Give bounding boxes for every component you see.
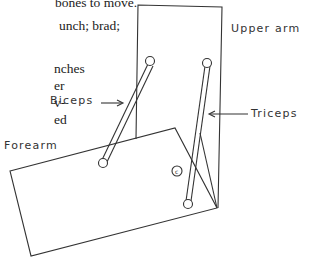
arm-diagram: c Upper arm Biceps Triceps Forearm xyxy=(0,0,310,259)
biceps-lower-pivot xyxy=(99,159,108,168)
triceps-arrow xyxy=(209,111,248,117)
biceps-label: Biceps xyxy=(50,94,93,107)
upper-arm-label: Upper arm xyxy=(231,22,300,35)
triceps-label: Triceps xyxy=(250,107,298,120)
triceps-upper-pivot xyxy=(203,59,212,68)
elbow-symbol: c xyxy=(175,168,178,175)
triceps-lower-pivot xyxy=(184,200,193,209)
biceps-upper-pivot xyxy=(146,57,155,66)
forearm-label: Forearm xyxy=(4,139,58,152)
biceps-arrow xyxy=(101,100,123,106)
